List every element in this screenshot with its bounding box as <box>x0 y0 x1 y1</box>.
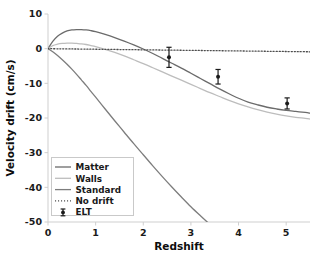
x-tick-label: 1 <box>92 227 99 238</box>
y-tick-label: -20 <box>25 112 43 123</box>
x-tick-label: 4 <box>235 227 242 238</box>
x-tick-label: 3 <box>188 227 195 238</box>
legend-label: ELT <box>76 207 92 217</box>
y-tick-label: 10 <box>29 8 43 19</box>
legend-label: Matter <box>76 162 110 172</box>
velocity-drift-chart: 012345 100-10-20-30-40-50 Redshift Veloc… <box>0 0 315 257</box>
legend-label: Walls <box>76 174 103 184</box>
x-axis-label: Redshift <box>154 240 204 252</box>
legend-label: Standard <box>76 185 122 195</box>
legend-label: No drift <box>76 196 114 206</box>
x-tick-label: 5 <box>283 227 290 238</box>
chart-legend[interactable]: MatterWallsStandardNo driftELT <box>52 158 134 218</box>
x-tick-label: 0 <box>45 227 52 238</box>
y-tick-label: -50 <box>25 216 43 227</box>
chart-background <box>0 0 315 257</box>
y-tick-label: -40 <box>25 182 43 193</box>
legend-errorbar-marker <box>61 211 65 215</box>
y-tick-label: -10 <box>25 78 43 89</box>
y-axis-label: Velocity drift (cm/s) <box>4 59 16 176</box>
errorbar-marker <box>216 75 220 79</box>
y-tick-label: 0 <box>35 43 42 54</box>
chart-figure: 012345 100-10-20-30-40-50 Redshift Veloc… <box>0 0 315 257</box>
errorbar-marker <box>285 101 289 105</box>
x-tick-label: 2 <box>140 227 147 238</box>
errorbar-marker <box>167 55 171 59</box>
y-tick-label: -30 <box>25 147 43 158</box>
